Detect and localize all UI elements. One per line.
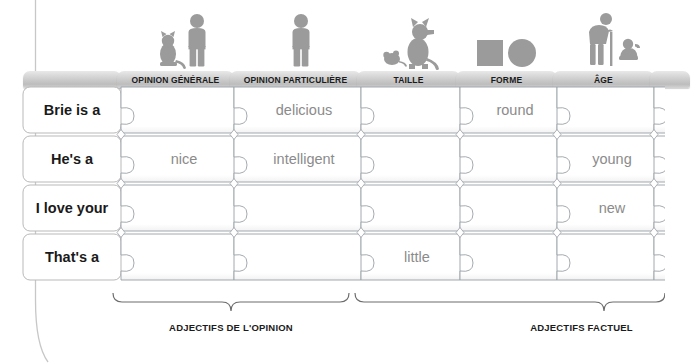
row-label-1-text: He's a xyxy=(51,151,93,167)
icon-cell-forme xyxy=(458,4,555,70)
brace-factuel-label: ADJECTIFS FACTUEL xyxy=(498,322,665,333)
puzzle-cells xyxy=(121,87,665,280)
brace-opinion-path xyxy=(113,293,349,311)
dog-and-mouse-icon xyxy=(380,14,442,70)
brace-factuel-label-text: ADJECTIFS FACTUEL xyxy=(530,322,633,333)
column-header-forme-label: FORME xyxy=(491,75,522,85)
row-label-1: He's a xyxy=(23,136,121,182)
column-header-taille-label: TAILLE xyxy=(393,75,423,85)
row-label-0: Brie is a xyxy=(23,87,121,133)
row-label-0-text: Brie is a xyxy=(44,102,100,118)
brace-opinion-label: ADJECTIFS DE L'OPINION xyxy=(110,322,352,333)
cell-1-couleur[interactable] xyxy=(667,136,695,182)
column-header-opinion-generale-label: OPINION GÉNÉRALE xyxy=(132,75,220,85)
elderly-person-and-child-icon xyxy=(573,10,643,70)
puzzle-grid: Brie is a He's a I love your That's a de… xyxy=(0,86,665,284)
icon-cell-opinion-generale xyxy=(133,4,238,70)
brace-factuel-path xyxy=(355,293,665,311)
brace-opinion-label-text: ADJECTIFS DE L'OPINION xyxy=(169,322,293,333)
icon-cell-opinion-particuliere xyxy=(248,4,353,70)
square-and-circle-icon xyxy=(476,36,538,70)
column-header-opinion-particuliere-label: OPINION PARTICULIÈRE xyxy=(244,75,347,85)
icon-cell-age xyxy=(555,4,660,70)
cell-3-couleur[interactable] xyxy=(667,234,695,280)
person-with-cat-icon xyxy=(151,10,221,70)
icon-strip xyxy=(0,0,665,72)
person-icon xyxy=(281,10,321,70)
column-header-age-label: ÂGE xyxy=(594,75,613,85)
icon-cell-taille xyxy=(363,4,458,70)
row-label-3: That's a xyxy=(23,234,121,280)
row-label-3-text: That's a xyxy=(45,249,99,265)
brace-group: ADJECTIFS DE L'OPINION ADJECTIFS FACTUEL xyxy=(0,284,665,363)
row-label-2-text: I love your xyxy=(36,200,109,216)
cell-0-couleur[interactable] xyxy=(667,87,695,133)
row-label-2: I love your xyxy=(23,185,121,231)
cell-2-couleur[interactable] xyxy=(667,185,695,231)
